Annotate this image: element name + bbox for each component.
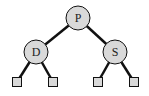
nodes: PDS (13, 6, 139, 87)
leaf-node-L4 (130, 78, 139, 87)
node-label: D (32, 45, 41, 59)
tree-node-D: D (24, 40, 48, 64)
tree-node-P: P (66, 6, 90, 30)
binary-tree-diagram: PDS (0, 0, 149, 96)
tree-node-S: S (103, 40, 127, 64)
leaf-node-L1 (13, 78, 22, 87)
leaf-node-L2 (49, 78, 58, 87)
node-label: P (75, 11, 82, 25)
leaf-node-L3 (94, 78, 103, 87)
node-label: S (112, 45, 119, 59)
